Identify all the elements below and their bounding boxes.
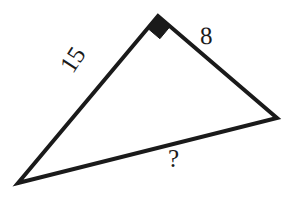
- triangle-drawing: [0, 0, 288, 201]
- side-label-right: 8: [200, 23, 213, 48]
- side-label-bottom-unknown: ?: [168, 146, 179, 171]
- triangle-figure: 15 8 ?: [0, 0, 288, 201]
- triangle-outline: [18, 16, 277, 183]
